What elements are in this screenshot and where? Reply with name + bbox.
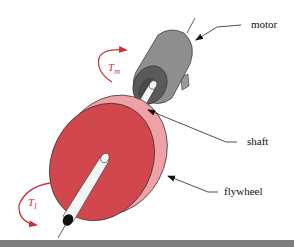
flywheel-leader-line — [168, 176, 218, 192]
shaft-top-line — [187, 18, 195, 33]
motor-torque-subscript: m — [114, 67, 120, 76]
flywheel-motor-diagram — [0, 0, 294, 247]
motor-leader-line — [196, 25, 241, 40]
flywheel-label: flywheel — [224, 185, 262, 197]
motor-torque-label: Tm — [108, 61, 120, 76]
motor-label: motor — [251, 18, 277, 30]
load-torque-label: Tl — [28, 196, 36, 211]
shaft-label: shaft — [247, 135, 268, 147]
load-torque-subscript: l — [34, 202, 36, 211]
bottom-band — [0, 240, 294, 247]
